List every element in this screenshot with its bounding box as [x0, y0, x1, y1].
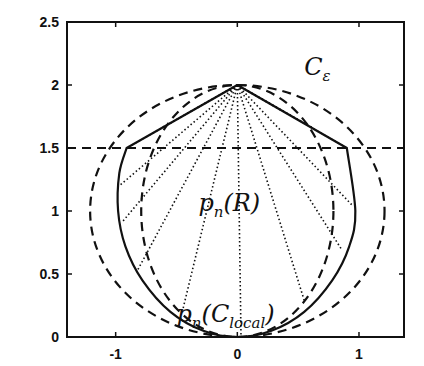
dotted-ray	[119, 85, 237, 186]
y-tick-label: 2	[51, 77, 59, 93]
annotation-c-eps: Cε	[304, 53, 330, 85]
y-tick-label: 2.5	[40, 14, 60, 30]
chart: -10100.511.522.5 Cεpn(R)pn(Clocal)	[0, 0, 424, 366]
y-tick-label: 0.5	[40, 266, 60, 282]
y-tick-label: 0	[51, 329, 59, 345]
x-tick-label: 0	[233, 346, 241, 362]
x-tick-label: -1	[109, 346, 122, 362]
dotted-ray	[123, 85, 237, 221]
dotted-ray	[237, 85, 351, 205]
y-tick-label: 1	[51, 203, 59, 219]
y-tick-label: 1.5	[40, 140, 60, 156]
annotation-pn-R: pn(R)	[198, 189, 260, 221]
annotation-pn-Clocal: pn(Clocal)	[176, 300, 274, 332]
x-tick-label: 1	[355, 346, 363, 362]
